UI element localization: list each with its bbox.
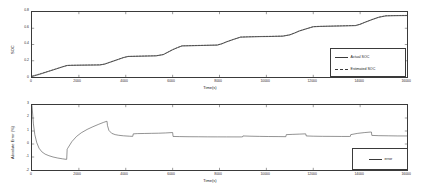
- error-ylabel: Absolute Error (%): [11, 126, 15, 159]
- error-legend: error: [352, 148, 408, 170]
- error-ytick-4: 2: [18, 115, 29, 118]
- error-xtick-8: 16000: [398, 173, 414, 176]
- error-xtick-0: 0: [23, 173, 39, 176]
- soc-ytick-1: 0.2: [18, 59, 29, 62]
- soc-ytick-2: 0.4: [18, 42, 29, 45]
- error-ytick-0: -2: [18, 169, 29, 172]
- error-xlabel: Time(s): [180, 179, 240, 183]
- error-xtick-7: 14000: [351, 173, 367, 176]
- solid-line-swatch-icon: [335, 57, 348, 58]
- soc-ytick-4: 0.8: [18, 9, 29, 12]
- soc-xtick-0: 0: [23, 80, 39, 83]
- soc-legend-actual-label: Actual SOC: [351, 56, 370, 60]
- error-xtick-4: 8000: [210, 173, 226, 176]
- error-legend-label: error: [385, 158, 393, 162]
- error-ytick-5: 3: [18, 102, 29, 105]
- error-subplot: -2 -1 0 1 2 3 0 2000 4000 6000 8000 1000…: [0, 97, 425, 190]
- series-error: [32, 106, 407, 160]
- error-plot-area: [32, 105, 407, 170]
- soc-subplot: 0 0.2 0.4 0.6 0.8 0 2000 4000 6000 8000 …: [0, 0, 425, 95]
- soc-xtick-2: 4000: [116, 80, 132, 83]
- soc-legend-row-estimated: Estimated SOC: [335, 68, 375, 72]
- soc-ylabel: SOC: [11, 45, 15, 54]
- soc-legend: Actual SOC Estimated SOC: [330, 48, 406, 77]
- soc-xtick-8: 16000: [398, 80, 414, 83]
- soc-xtick-6: 12000: [304, 80, 320, 83]
- soc-xtick-1: 2000: [69, 80, 85, 83]
- soc-ytick-3: 0.6: [18, 26, 29, 29]
- solid-line-swatch-icon: [369, 159, 382, 160]
- soc-legend-row-actual: Actual SOC: [335, 56, 369, 60]
- error-xtick-6: 12000: [304, 173, 320, 176]
- error-xtick-2: 4000: [116, 173, 132, 176]
- soc-xtick-4: 8000: [210, 80, 226, 83]
- error-xtick-1: 2000: [69, 173, 85, 176]
- soc-ytick-0: 0: [18, 76, 29, 79]
- error-ytick-3: 1: [18, 129, 29, 132]
- soc-xtick-3: 6000: [163, 80, 179, 83]
- error-legend-row: error: [369, 158, 392, 162]
- soc-xlabel: Time(s): [180, 86, 240, 90]
- matlab-figure: 0 0.2 0.4 0.6 0.8 0 2000 4000 6000 8000 …: [0, 0, 425, 190]
- dashed-line-swatch-icon: [335, 69, 348, 70]
- soc-xtick-5: 10000: [257, 80, 273, 83]
- error-xtick-3: 6000: [163, 173, 179, 176]
- error-ytick-2: 0: [18, 142, 29, 145]
- error-ytick-1: -1: [18, 155, 29, 158]
- error-xtick-5: 10000: [257, 173, 273, 176]
- soc-legend-estimated-label: Estimated SOC: [351, 68, 376, 72]
- soc-xtick-7: 14000: [351, 80, 367, 83]
